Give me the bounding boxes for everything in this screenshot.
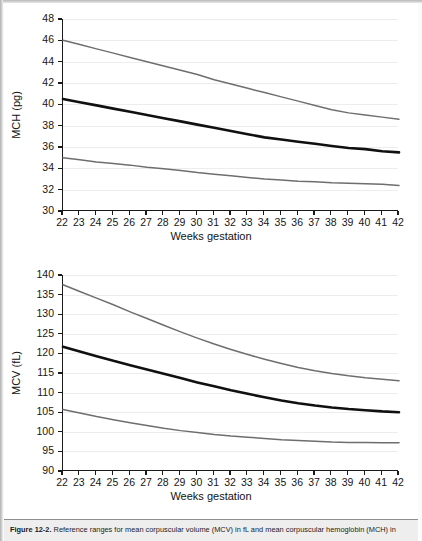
x-tick-label: 25 <box>107 476 119 488</box>
x-tick-label: 37 <box>308 216 320 228</box>
y-tick-mark <box>58 294 62 295</box>
x-tick-label: 42 <box>392 216 404 228</box>
y-tick-mark <box>58 40 62 41</box>
x-tick-mark <box>280 211 281 215</box>
y-tick-label: 30 <box>18 205 54 216</box>
x-tick-label: 33 <box>241 216 253 228</box>
x-tick-mark <box>297 471 298 475</box>
x-tick-mark <box>297 211 298 215</box>
x-tick-label: 35 <box>275 476 287 488</box>
x-tick-mark <box>95 211 96 215</box>
x-tick-label: 38 <box>325 476 337 488</box>
x-tick-mark <box>61 211 62 215</box>
x-tick-label: 41 <box>375 216 387 228</box>
y-tick-label: 140 <box>18 269 54 280</box>
x-tick-label: 26 <box>123 476 135 488</box>
y-tick-label: 34 <box>18 162 54 173</box>
x-tick-mark <box>364 471 365 475</box>
x-tick-mark <box>112 471 113 475</box>
y-tick-mark <box>58 333 62 334</box>
figure-caption-body: Reference ranges for mean corpuscular vo… <box>54 525 396 534</box>
y-tick-mark <box>58 61 62 62</box>
y-tick-mark <box>58 104 62 105</box>
x-tick-mark <box>364 211 365 215</box>
series-line <box>63 409 399 442</box>
x-tick-mark <box>347 471 348 475</box>
y-tick-label: 105 <box>18 406 54 417</box>
x-tick-label: 31 <box>207 216 219 228</box>
x-tick-mark <box>246 471 247 475</box>
mcv-chart: 9095100105110115120125130135140222324252… <box>4 263 418 519</box>
x-tick-mark <box>313 471 314 475</box>
x-tick-mark <box>129 211 130 215</box>
y-tick-mark <box>58 372 62 373</box>
x-tick-label: 40 <box>359 216 371 228</box>
series-line <box>63 347 399 412</box>
x-tick-label: 39 <box>342 216 354 228</box>
figure-caption-label: Figure 12-2. <box>10 525 51 534</box>
y-tick-mark <box>58 146 62 147</box>
x-tick-label: 34 <box>258 476 270 488</box>
mch-chart: 3032343638404244464822232425262728293031… <box>4 5 418 257</box>
y-tick-mark <box>58 189 62 190</box>
x-tick-label: 27 <box>140 476 152 488</box>
x-tick-label: 35 <box>275 216 287 228</box>
mch-plot-area <box>62 19 398 211</box>
mch-x-axis-title: Weeks gestation <box>4 230 418 242</box>
series-line <box>63 99 399 152</box>
y-tick-label: 90 <box>18 465 54 476</box>
x-tick-mark <box>196 471 197 475</box>
y-tick-mark <box>58 125 62 126</box>
x-tick-label: 37 <box>308 476 320 488</box>
mcv-plot-area <box>62 275 398 471</box>
mcv-y-axis-title: MCV (fL) <box>10 351 22 395</box>
y-tick-mark <box>58 392 62 393</box>
y-tick-label: 42 <box>18 77 54 88</box>
figure-caption: Figure 12-2. Reference ranges for mean c… <box>10 525 414 534</box>
x-tick-label: 41 <box>375 476 387 488</box>
y-tick-mark <box>58 18 62 19</box>
x-tick-label: 40 <box>359 476 371 488</box>
x-tick-label: 22 <box>56 476 68 488</box>
x-tick-label: 36 <box>291 476 303 488</box>
x-tick-mark <box>280 471 281 475</box>
x-tick-mark <box>162 471 163 475</box>
x-tick-mark <box>381 471 382 475</box>
x-tick-label: 30 <box>191 476 203 488</box>
x-tick-label: 23 <box>73 216 85 228</box>
x-tick-label: 28 <box>157 216 169 228</box>
x-tick-mark <box>78 471 79 475</box>
mcv-series-layer <box>63 275 399 471</box>
x-tick-label: 42 <box>392 476 404 488</box>
mch-series-layer <box>63 19 399 211</box>
x-tick-label: 23 <box>73 476 85 488</box>
x-tick-label: 32 <box>224 216 236 228</box>
x-tick-label: 36 <box>291 216 303 228</box>
page-edge-left <box>0 0 3 541</box>
x-tick-mark <box>162 211 163 215</box>
x-tick-label: 38 <box>325 216 337 228</box>
x-tick-label: 24 <box>90 216 102 228</box>
y-tick-mark <box>58 353 62 354</box>
x-tick-mark <box>145 211 146 215</box>
figure-caption-bar: Figure 12-2. Reference ranges for mean c… <box>4 519 418 541</box>
x-tick-label: 32 <box>224 476 236 488</box>
y-tick-label: 40 <box>18 98 54 109</box>
x-tick-label: 29 <box>174 216 186 228</box>
y-tick-mark <box>58 274 62 275</box>
page-background: 3032343638404244464822232425262728293031… <box>0 0 422 541</box>
mcv-x-axis-title: Weeks gestation <box>4 490 418 502</box>
y-tick-mark <box>58 168 62 169</box>
x-tick-label: 33 <box>241 476 253 488</box>
x-tick-label: 29 <box>174 476 186 488</box>
y-tick-mark <box>58 451 62 452</box>
x-tick-mark <box>213 211 214 215</box>
x-tick-mark <box>246 211 247 215</box>
y-tick-label: 115 <box>18 367 54 378</box>
x-tick-mark <box>61 471 62 475</box>
x-tick-mark <box>263 211 264 215</box>
x-tick-mark <box>229 471 230 475</box>
series-line <box>63 158 399 186</box>
y-tick-mark <box>58 314 62 315</box>
x-tick-label: 30 <box>191 216 203 228</box>
